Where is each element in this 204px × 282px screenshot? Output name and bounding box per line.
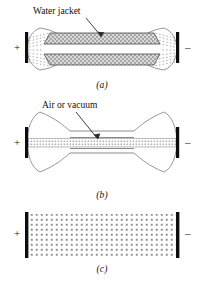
callout-label-air-or-vacuum: Air or vacuum [42,100,97,110]
electrode-negative-b [176,127,179,158]
polarity-sign-positive-c: + [14,228,20,239]
beam-column-b [28,139,176,148]
right-bulb-bottom-b [134,153,164,172]
polarity-sign-positive-a: + [14,42,20,53]
electrode-negative-a [176,32,179,63]
panel-c: + – (c) [0,208,204,282]
polarity-sign-negative-a: – [185,42,191,53]
polarity-sign-positive-b: + [14,137,20,148]
panel-caption-a: (a) [0,80,204,90]
electrode-negative-c [176,212,179,258]
right-bulb-top-b [134,112,164,131]
beam-grid-c [28,214,176,256]
left-bulb-bottom-b [40,153,70,172]
polarity-sign-negative-c: – [185,228,191,239]
callout-label-water-jacket: Water jacket [33,6,81,16]
left-bulb-top-b [40,112,70,131]
panel-a: + – Water jacket (a) [0,0,204,98]
electrode-positive-a [25,32,28,63]
panel-caption-c: (c) [0,264,204,274]
figure-root: + – Water jacket (a) [0,0,204,282]
panel-b: + – Air or vacuum (b) [0,98,204,208]
panel-caption-b: (b) [0,190,204,200]
water-jacket-band-lower [44,54,160,65]
callout-leader-b [76,112,97,138]
electrode-positive-b [25,127,28,158]
left-bulb-arc-a [27,28,40,70]
right-bulb-arc-a [164,28,177,70]
polarity-sign-negative-b: – [185,137,191,148]
electrode-positive-c [25,212,28,258]
